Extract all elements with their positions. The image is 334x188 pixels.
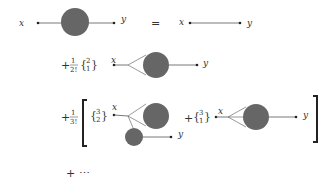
stirling-top: 3 — [199, 109, 203, 117]
bare-propagator: x y — [179, 17, 253, 28]
stirling-bottom: 1 — [199, 117, 203, 125]
continuation-ellipsis: + ⋯ — [66, 167, 90, 180]
stirling-bottom: 1 — [86, 65, 90, 73]
term-second-order: + 1 2! { 2 1 } x y — [61, 52, 209, 78]
plus-sign: + — [61, 111, 70, 124]
prefactor-denominator: 3! — [70, 118, 77, 126]
y-label: y — [302, 110, 309, 120]
blob-small — [125, 128, 143, 146]
stirling-bottom: 2 — [96, 116, 100, 124]
x-label: x — [218, 106, 223, 116]
blob — [243, 104, 269, 130]
plus-sign: + — [184, 112, 193, 125]
brace-close: } — [91, 58, 98, 71]
brace-close: } — [204, 110, 211, 123]
prefactor-denominator: 2! — [70, 66, 77, 74]
vertex-dot — [37, 22, 40, 25]
vertex-dot — [113, 22, 116, 25]
lhs-x-label: x — [19, 18, 24, 28]
equals-sign: = — [151, 17, 160, 30]
lhs-y-label: y — [120, 14, 127, 24]
bracket-right — [313, 96, 317, 142]
blob — [143, 52, 169, 78]
x-label: x — [112, 102, 117, 112]
y-label: y — [177, 129, 184, 139]
lhs-dressed-propagator: x y — [19, 8, 127, 36]
bracket-left — [83, 100, 87, 146]
rhs-y-label: y — [246, 18, 253, 28]
stirling-top: 3 — [96, 108, 100, 116]
blob — [61, 8, 89, 36]
blob — [143, 103, 169, 129]
stirling-top: 2 — [86, 57, 90, 65]
prefactor-numerator: 1 — [71, 109, 75, 117]
y-label: y — [202, 58, 209, 68]
plus-sign: + — [61, 59, 70, 72]
rhs-x-label: x — [179, 17, 184, 27]
prefactor-numerator: 1 — [71, 57, 75, 65]
brace-close: } — [101, 109, 108, 122]
x-label: x — [111, 55, 116, 65]
term-third-order: + 1 3! { 3 2 } x y + { 3 1 } x — [61, 96, 317, 146]
